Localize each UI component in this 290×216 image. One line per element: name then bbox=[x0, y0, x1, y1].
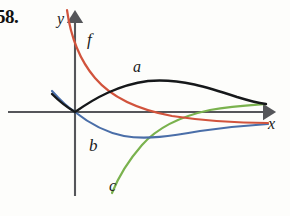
curve-label-b: b bbox=[89, 137, 98, 154]
graph-figure: 58. y x f a b c bbox=[0, 0, 290, 216]
curve-label-f: f bbox=[87, 31, 92, 48]
y-axis-label: y bbox=[57, 11, 64, 27]
x-axis-label: x bbox=[268, 116, 275, 132]
curve-label-a: a bbox=[133, 59, 141, 75]
coordinate-plot bbox=[0, 0, 290, 216]
curve-label-c: c bbox=[109, 178, 116, 194]
